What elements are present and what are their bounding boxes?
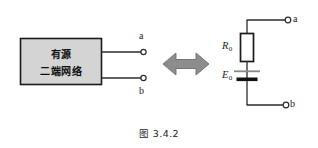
equivalence-arrow-icon <box>163 53 209 75</box>
voltage-source-label-text: E <box>222 69 228 80</box>
resistor-label-text: R <box>222 40 228 51</box>
resistor-label: R0 <box>222 41 232 52</box>
voltage-source-label-subscript: 0 <box>229 74 233 82</box>
terminal-dot-b <box>141 75 146 80</box>
battery-long-plate <box>234 70 260 72</box>
terminal-label-b-right: b <box>290 99 295 109</box>
terminal-dot-a <box>141 49 146 54</box>
figure-caption: 图 3.4.2 <box>0 126 318 140</box>
resistor-label-subscript: 0 <box>229 45 233 53</box>
terminal-dot-b-right <box>283 102 289 108</box>
terminal-label-a-left: a <box>139 31 143 41</box>
network-box-label-line1: 有源 <box>51 46 72 61</box>
terminal-dot-a-right <box>285 17 291 23</box>
terminal-label-a-right: a <box>293 14 297 24</box>
voltage-source-label: E0 <box>222 70 232 81</box>
network-box-label-line2: 二端网络 <box>40 63 82 78</box>
right-circuit-group <box>234 17 291 108</box>
resistor-symbol <box>241 34 254 62</box>
battery-short-plate <box>237 78 258 82</box>
terminal-label-b-left: b <box>139 86 144 96</box>
figure-container: 有源 二端网络 a b R0 E0 a b 图 3.4.2 <box>0 0 318 148</box>
network-box-label: 有源 二端网络 <box>20 38 102 85</box>
